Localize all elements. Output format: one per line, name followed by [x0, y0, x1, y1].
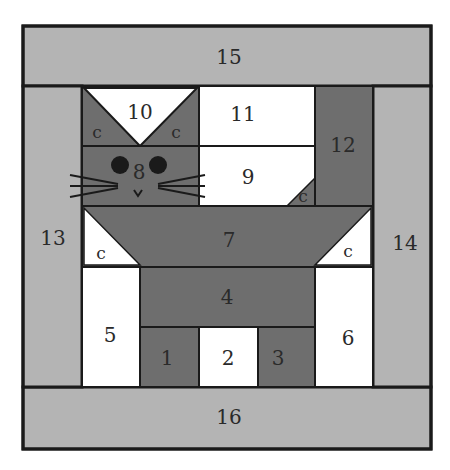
label-2: 2	[222, 346, 235, 370]
label-6: 6	[342, 326, 355, 350]
label-c-ear-left: c	[92, 122, 102, 142]
label-7: 7	[223, 228, 236, 252]
label-3: 3	[272, 346, 285, 370]
label-16: 16	[216, 405, 241, 429]
label-5: 5	[104, 323, 117, 347]
label-13: 13	[40, 226, 65, 250]
cat-quilt-block-diagram: 15 16 13 14 10 11 12 8 9 7 4 5 6 1 2 3 c…	[0, 0, 450, 470]
label-c-piece9: c	[298, 186, 308, 206]
left-eye-icon	[111, 156, 129, 174]
piece-11	[199, 86, 315, 146]
label-c-ear-right: c	[171, 122, 181, 142]
label-14: 14	[392, 231, 417, 255]
label-12: 12	[330, 133, 355, 157]
label-11: 11	[230, 102, 255, 126]
label-9: 9	[242, 165, 255, 189]
label-10: 10	[127, 100, 152, 124]
right-eye-icon	[149, 156, 167, 174]
piece-3-leg	[258, 327, 315, 387]
label-c-body-right: c	[343, 241, 353, 261]
label-1: 1	[161, 346, 174, 370]
label-15: 15	[216, 45, 241, 69]
label-8: 8	[133, 160, 146, 184]
label-c-body-left: c	[96, 243, 106, 263]
label-4: 4	[221, 285, 234, 309]
